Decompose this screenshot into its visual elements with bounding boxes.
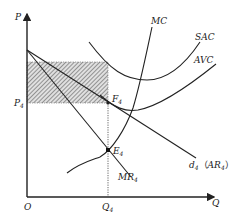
price-label-p4: P4: [13, 98, 24, 109]
point-e4: [106, 148, 110, 152]
avc-label: AVC: [193, 55, 214, 65]
origin-label: O: [24, 202, 32, 212]
quantity-label-q4: Q4: [102, 202, 113, 213]
cost-revenue-diagram: P Q O P4 Q4 F4 E4 MC SAC AVC MR4 d4（AR4）: [0, 0, 240, 217]
y-axis-label: P: [14, 12, 22, 22]
shaded-loss-area: [27, 62, 108, 103]
mc-label: MC: [150, 16, 167, 26]
sac-label: SAC: [195, 32, 215, 42]
point-f4: [106, 101, 109, 104]
x-axis-label: Q: [212, 198, 220, 208]
mr-label: MR4: [117, 172, 138, 183]
point-e4-label: E4: [112, 146, 124, 157]
point-f4-label: F4: [111, 94, 122, 105]
demand-label: d4（AR4）: [189, 160, 234, 171]
